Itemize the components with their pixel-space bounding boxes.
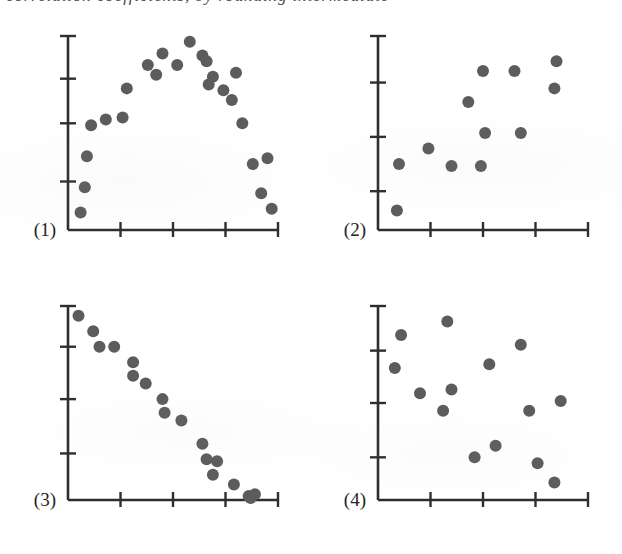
data-point	[555, 395, 567, 407]
data-point	[201, 55, 213, 67]
scatterplot-panel-4: (4)	[332, 296, 600, 544]
scatterplot-panel-2: (2)	[332, 26, 600, 274]
data-point	[79, 181, 91, 193]
data-point	[81, 150, 93, 162]
data-point	[391, 205, 403, 217]
data-point	[477, 65, 489, 77]
data-point	[446, 160, 458, 172]
data-point	[255, 187, 267, 199]
data-point	[548, 477, 560, 489]
data-point	[171, 59, 183, 71]
panel-1-canvas: (1)	[22, 26, 290, 274]
data-point	[203, 79, 215, 91]
data-point	[479, 127, 491, 139]
data-point	[207, 469, 219, 481]
data-point	[217, 84, 229, 96]
data-point	[157, 47, 169, 59]
data-point	[157, 393, 169, 405]
data-point	[108, 341, 120, 353]
panel-label: (2)	[344, 219, 366, 241]
data-point	[515, 339, 527, 351]
data-point	[551, 55, 563, 67]
data-point	[266, 203, 278, 215]
data-point	[483, 358, 495, 370]
panel-2-canvas: (2)	[332, 26, 600, 274]
data-point	[422, 143, 434, 155]
data-point	[121, 82, 133, 94]
data-point	[509, 65, 521, 77]
data-point	[523, 405, 535, 417]
data-point	[228, 478, 240, 490]
data-point	[462, 96, 474, 108]
data-point	[393, 158, 405, 170]
data-point	[94, 341, 106, 353]
scatterplot-panel-1: (1)	[22, 26, 290, 274]
data-point-group	[75, 36, 278, 219]
data-point	[175, 414, 187, 426]
data-point	[247, 158, 259, 170]
data-point	[184, 36, 196, 48]
data-point	[117, 111, 129, 123]
data-point	[85, 119, 97, 131]
data-point	[236, 117, 248, 129]
data-point	[211, 455, 223, 467]
data-point	[414, 387, 426, 399]
data-point	[532, 457, 544, 469]
data-point-group	[389, 316, 567, 489]
data-point	[262, 152, 274, 164]
data-point	[469, 451, 481, 463]
data-point	[446, 383, 458, 395]
data-point	[490, 440, 502, 452]
data-point	[127, 356, 139, 368]
panel-label: (4)	[344, 489, 366, 511]
clipped-caption-text: correlation coefficients, by rounding in…	[0, 0, 622, 6]
data-point	[475, 160, 487, 172]
data-point	[75, 207, 87, 219]
data-point	[230, 67, 242, 79]
data-point	[437, 405, 449, 417]
data-point	[515, 127, 527, 139]
data-point	[150, 69, 162, 81]
data-point	[201, 453, 213, 465]
data-point	[140, 378, 152, 390]
data-point	[100, 113, 112, 125]
panel-3-canvas: (3)	[22, 296, 290, 544]
data-point	[389, 362, 401, 374]
data-point	[196, 438, 208, 450]
panel-label: (1)	[34, 219, 56, 241]
data-point	[142, 59, 154, 71]
data-point	[395, 329, 407, 341]
data-point	[159, 407, 171, 419]
clipped-caption-line: correlation coefficients, by rounding in…	[0, 0, 622, 12]
data-point	[548, 82, 560, 94]
panel-4-canvas: (4)	[332, 296, 600, 544]
data-point	[245, 492, 257, 504]
data-point	[441, 316, 453, 328]
data-point	[87, 325, 99, 337]
panel-label: (3)	[34, 489, 56, 511]
scatterplot-panel-3: (3)	[22, 296, 290, 544]
data-point	[226, 94, 238, 106]
data-point	[127, 370, 139, 382]
data-point	[73, 310, 85, 322]
data-point-group	[73, 310, 261, 504]
data-point-group	[391, 55, 563, 216]
